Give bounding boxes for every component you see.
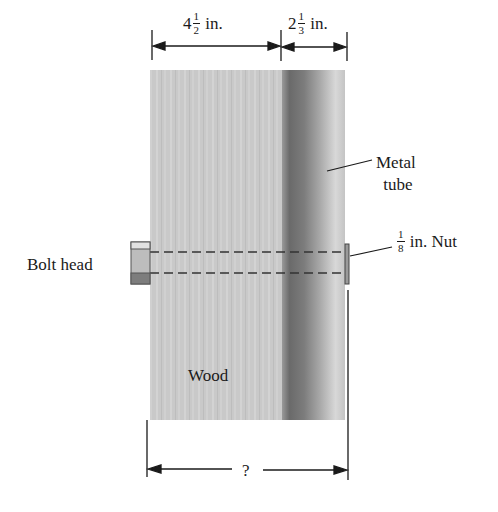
fraction-numerator: 1 (298, 11, 306, 24)
fraction-numerator: 1 (397, 229, 405, 242)
wood-width-unit: in. (205, 14, 222, 33)
fraction-denominator: 8 (398, 242, 404, 254)
fraction-numerator: 1 (193, 11, 201, 24)
nut-thickness-unit: in. (410, 232, 427, 251)
tube-width-unit: in. (310, 14, 327, 33)
tube-width-fraction: 13 (298, 11, 306, 36)
nut-thickness-fraction: 18 (397, 229, 405, 254)
tube-width-label: 213 in. (288, 13, 328, 38)
bolt-head-label: Bolt head (27, 256, 93, 273)
nut-shape (345, 244, 349, 284)
fraction-denominator: 3 (299, 24, 305, 36)
metal-tube-label: Metal tube (376, 152, 416, 196)
wood-width-label: 412 in. (183, 13, 223, 38)
metal-tube-label-line1: Metal (376, 152, 416, 174)
nut-label: 18 in. Nut (396, 231, 457, 256)
total-length-unknown: ? (242, 462, 250, 479)
bolt-head-shape (131, 242, 150, 284)
metal-tube (282, 70, 345, 420)
fraction-denominator: 2 (194, 24, 200, 36)
wood-width-fraction: 12 (193, 11, 201, 36)
wood-width-whole: 4 (183, 14, 192, 33)
metal-tube-label-line2: tube (376, 174, 416, 196)
nut-label-text: Nut (431, 232, 457, 251)
wood-label: Wood (188, 367, 228, 384)
tube-width-whole: 2 (288, 14, 297, 33)
